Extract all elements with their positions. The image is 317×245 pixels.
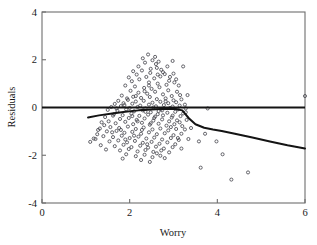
data-point	[175, 127, 178, 130]
data-point	[147, 81, 150, 84]
data-point	[155, 133, 158, 136]
data-point	[124, 138, 127, 141]
data-point	[149, 111, 152, 114]
data-point	[140, 128, 143, 131]
data-point	[175, 90, 178, 93]
data-point	[106, 108, 109, 111]
data-point	[149, 67, 152, 70]
data-point	[159, 154, 162, 157]
data-point	[124, 84, 127, 87]
data-point	[162, 104, 165, 107]
data-point	[133, 139, 136, 142]
data-point	[89, 140, 92, 143]
data-point	[99, 144, 102, 147]
data-point	[137, 135, 140, 138]
data-point	[142, 99, 145, 102]
data-point	[104, 116, 107, 119]
data-point	[114, 122, 117, 125]
data-point	[150, 140, 153, 143]
data-point	[144, 148, 147, 151]
data-point	[185, 118, 188, 121]
data-point	[161, 138, 164, 141]
data-point	[145, 137, 148, 140]
data-point	[168, 79, 171, 82]
data-point	[154, 90, 157, 93]
y-tick-label: -4	[28, 198, 37, 209]
residual-plot-svg: 0246 -4-2024 Worry Residuals	[0, 0, 317, 245]
data-point	[133, 85, 136, 88]
data-point	[151, 59, 154, 62]
data-point	[166, 141, 169, 144]
data-point	[133, 134, 136, 137]
y-tick-labels: -4-2024	[28, 7, 38, 209]
data-point	[161, 118, 164, 121]
data-point	[171, 59, 174, 62]
data-point	[186, 94, 189, 97]
data-point	[120, 134, 123, 137]
data-point	[215, 140, 218, 143]
data-point	[120, 94, 123, 97]
data-point	[140, 158, 143, 161]
data-point	[147, 131, 150, 134]
data-point	[178, 121, 181, 124]
data-point	[159, 100, 162, 103]
data-point	[204, 132, 207, 135]
data-point	[102, 135, 105, 138]
data-point	[154, 55, 157, 58]
data-point	[155, 66, 158, 69]
data-point	[140, 121, 143, 124]
data-point	[151, 156, 154, 159]
data-point	[125, 153, 128, 156]
scatter-points	[89, 53, 307, 181]
data-point	[173, 123, 176, 126]
data-point	[139, 144, 142, 147]
data-point	[104, 148, 107, 151]
data-point	[161, 114, 164, 117]
data-point	[158, 86, 161, 89]
data-point	[179, 94, 182, 97]
x-tick-label: 6	[302, 207, 307, 218]
data-point	[167, 129, 170, 132]
data-point	[180, 98, 183, 101]
x-tick-label: 4	[215, 207, 221, 218]
data-point	[129, 89, 132, 92]
data-point	[113, 102, 116, 105]
data-point	[140, 132, 143, 135]
data-point	[96, 133, 99, 136]
data-point	[170, 94, 173, 97]
data-point	[134, 100, 137, 103]
data-point	[117, 99, 120, 102]
data-point	[147, 146, 150, 149]
data-point	[148, 160, 151, 163]
data-point	[103, 124, 106, 127]
data-point	[147, 53, 150, 56]
data-point	[141, 57, 144, 60]
data-point	[111, 131, 114, 134]
data-point	[158, 142, 161, 145]
data-point	[100, 121, 103, 124]
data-point	[113, 145, 116, 148]
chart-figure: 0246 -4-2024 Worry Residuals	[0, 0, 317, 245]
data-point	[179, 115, 182, 118]
data-point	[141, 141, 144, 144]
data-point	[105, 130, 108, 133]
data-point	[172, 134, 175, 137]
x-axis-ticks	[42, 199, 305, 203]
y-tick-label: 2	[32, 54, 37, 65]
data-point	[183, 103, 186, 106]
data-point	[146, 143, 149, 146]
data-point	[115, 129, 118, 132]
data-point	[199, 166, 202, 169]
y-tick-label: 0	[32, 102, 37, 113]
data-point	[143, 153, 146, 156]
data-point	[163, 157, 166, 160]
data-point	[146, 92, 149, 95]
data-point	[173, 81, 176, 84]
data-point	[138, 114, 141, 117]
data-point	[152, 150, 155, 153]
y-tick-label: 4	[32, 7, 38, 18]
data-point	[118, 149, 121, 152]
data-point	[154, 145, 157, 148]
data-point	[150, 87, 153, 90]
data-point	[143, 86, 146, 89]
